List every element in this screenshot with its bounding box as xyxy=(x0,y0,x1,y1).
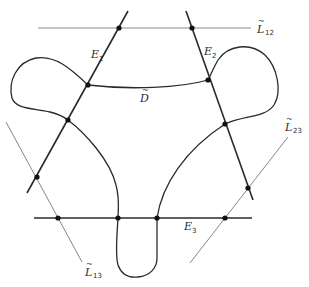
svg-text:E: E xyxy=(90,48,99,61)
svg-text:23: 23 xyxy=(293,127,302,135)
svg-text:D: D xyxy=(139,92,149,105)
point-E3-L13 xyxy=(55,215,60,220)
svg-text:L: L xyxy=(284,121,292,134)
label-D: ~ D xyxy=(139,86,149,105)
label-L23: ~ L 23 xyxy=(284,115,302,135)
label-L12: ~ L 12 xyxy=(256,17,274,37)
svg-text:2: 2 xyxy=(212,52,216,60)
point-E1-D-lower xyxy=(65,117,70,122)
svg-text:1: 1 xyxy=(99,55,103,63)
point-E2-D-upper xyxy=(205,77,210,82)
point-E1-L13 xyxy=(34,174,39,179)
line-L13 xyxy=(6,122,82,262)
point-E2-D-lower xyxy=(222,121,227,126)
point-E3-D-left xyxy=(115,215,120,220)
label-E2: E 2 xyxy=(203,45,216,60)
line-E1 xyxy=(27,11,128,193)
svg-text:L: L xyxy=(84,266,92,279)
svg-text:3: 3 xyxy=(192,227,196,235)
point-E3-L23 xyxy=(222,215,227,220)
blowup-diagram: E 1 E 2 E 3 ~ D ~ L 12 ~ L 13 ~ L 23 xyxy=(0,0,309,287)
point-E1-L12 xyxy=(116,25,121,30)
svg-text:E: E xyxy=(203,45,212,58)
label-E1: E 1 xyxy=(90,48,103,63)
line-E2 xyxy=(186,11,253,200)
intersection-points xyxy=(34,25,250,220)
label-E3: E 3 xyxy=(183,220,196,235)
svg-text:12: 12 xyxy=(265,29,274,37)
line-L23 xyxy=(190,137,288,263)
point-E2-L23 xyxy=(245,185,250,190)
point-E3-D-right xyxy=(154,215,159,220)
label-L13: ~ L 13 xyxy=(84,260,102,280)
point-E1-D-upper xyxy=(85,82,90,87)
svg-text:13: 13 xyxy=(93,272,102,280)
svg-text:L: L xyxy=(256,23,264,36)
curve-D xyxy=(11,47,278,277)
point-E2-L12 xyxy=(189,25,194,30)
svg-text:E: E xyxy=(183,220,192,233)
